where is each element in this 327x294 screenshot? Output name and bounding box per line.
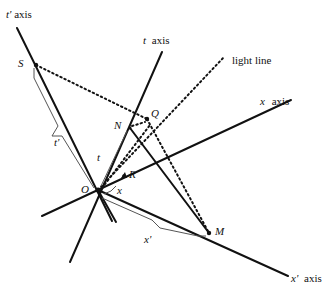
light-line-label: light line [232,55,271,66]
point-o-marker [96,188,101,193]
point-s-marker [34,63,38,67]
x-prime-axis-symbol: x' [291,272,298,284]
s-to-q-dotted-line [36,65,147,119]
t-prime-bracket [34,68,94,188]
t-axis-word: axis [152,34,170,46]
t-axis-label: t axis [143,35,170,46]
point-n-label: N [114,120,121,131]
t-prime-axis-symbol: t' [6,8,11,20]
x-axis-word: axis [272,95,290,107]
x-prime-bracket [102,198,206,236]
x-prime-axis-word: axis [304,272,322,284]
t-interval-label: t [97,152,100,163]
point-o-label: O [81,184,89,195]
point-m-label: M [215,226,224,237]
t-prime-interval-label: t' [54,137,59,148]
t-axis-symbol: t [143,34,146,46]
t-axis-line [70,52,162,262]
point-r-label: R [129,169,136,180]
t-prime-axis-label: t' axis [6,9,32,20]
point-q-marker [145,117,149,121]
point-q-label: Q [151,108,159,119]
point-s-label: S [18,58,24,69]
x-prime-axis-label: x' axis [291,273,322,284]
x-axis-symbol: x [260,95,265,107]
r-arrow-icon [121,172,127,178]
x-axis-label: x axis [260,96,289,107]
n-to-q-dotted-line [132,122,145,126]
x-prime-interval-label: x' [144,234,151,245]
point-n-marker [129,127,132,130]
t-prime-axis-word: axis [14,8,32,20]
point-m-marker [207,231,211,235]
x-interval-label: x [117,185,122,196]
